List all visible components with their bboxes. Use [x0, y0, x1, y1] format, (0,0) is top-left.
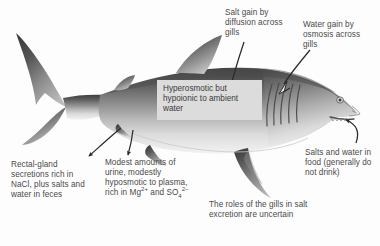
- urine-arrow: [128, 130, 133, 155]
- label-salt-gain: Salt gain by diffusion across gills: [225, 8, 297, 38]
- label-rectal-gland: Rectal-gland secretions rich in NaCl, pl…: [11, 160, 89, 200]
- label-water-gain: Water gain by osmosis across gills: [303, 20, 373, 50]
- sulfate-charge: 2–: [182, 186, 189, 192]
- water-gain-arrow: [284, 50, 310, 84]
- label-urine-mid: and SO: [148, 188, 178, 197]
- label-urine: Modest amounts of urine, modestly hyposm…: [105, 158, 189, 198]
- rectal-gland-arrow: [89, 128, 121, 156]
- shark-osmoregulation-figure: Salt gain by diffusion across gills Wate…: [0, 0, 380, 246]
- callout-hyperosmotic: Hyperosmotic but hypoionic to ambient wa…: [157, 80, 262, 120]
- magnesium-charge: 2+: [141, 186, 148, 192]
- label-salts-in-food: Salts and water in food (generally do no…: [305, 148, 375, 178]
- label-gill-roles: The roles of the gills in salt excretion…: [209, 200, 313, 220]
- sulfate-subscript: 4: [178, 192, 181, 198]
- food-arrow: [346, 120, 358, 143]
